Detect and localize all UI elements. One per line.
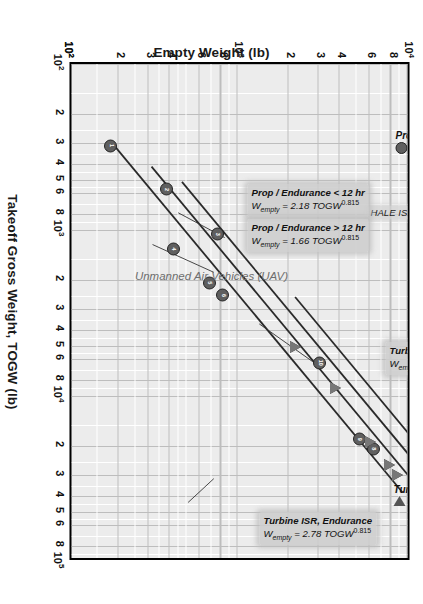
callout-prop-gt12-eq: Wempty = 1.66 TOGW0.815 <box>251 234 364 250</box>
x-tick-label: 104 <box>51 386 65 403</box>
legend-propeller-isr: Propeller ISR UAV 1Spectre2Sky Eye3Preda… <box>395 130 409 263</box>
callout-turbine-maneuver: Turbine Maneuver UCAV Wempty = 3.53 TOGW… <box>385 342 409 375</box>
x-tick-label: 6 <box>53 520 65 526</box>
y-axis-origin-label: 102 <box>62 41 76 58</box>
x-tick-label: 4 <box>53 491 65 497</box>
callout-turbine-isr-line1: Turbine ISR, Endurance <box>263 515 372 526</box>
x-axis-title: Takeoff Gross Weight, TOGW (lb) <box>4 0 19 604</box>
legend-propeller-title: Propeller ISR <box>395 130 409 141</box>
data-point-15 <box>290 341 301 353</box>
x-tick-label: 4 <box>53 325 65 331</box>
x-tick-label: 5 <box>53 341 65 347</box>
x-tick-label: 3 <box>53 138 65 144</box>
x-tick-label: 8 <box>53 375 65 381</box>
callout-leader-line <box>152 245 213 273</box>
legend-ucav-title: Turbine UCAV <box>393 484 409 495</box>
data-point-9: 9 <box>352 433 365 446</box>
filled-triangle-marker-icon <box>393 496 405 506</box>
x-tick-label: 8 <box>53 541 65 547</box>
x-tick-label: 103 <box>51 220 65 237</box>
callout-prop-lt12-line1: Prop / Endurance < 12 hr <box>251 187 364 198</box>
x-tick-label: 6 <box>53 354 65 360</box>
y-tick-label: 3 <box>314 52 326 58</box>
x-tick-label: 3 <box>53 470 65 476</box>
y-tick-label: 104 <box>402 41 416 58</box>
data-point-10: 10 <box>313 356 326 369</box>
y-tick-label: 8 <box>387 52 399 58</box>
x-tick-label: 8 <box>53 209 65 215</box>
x-tick-label: 6 <box>53 188 65 194</box>
data-point-4: 4 <box>166 242 179 255</box>
callout-prop-lt12: Prop / Endurance < 12 hr Wempty = 2.18 T… <box>247 184 368 217</box>
x-tick-label: 2 <box>53 275 65 281</box>
y-axis-title: Empty Weight (lb) <box>122 45 302 60</box>
x-tick-label: 105 <box>51 552 65 569</box>
legend-turbine-ucav: Turbine UCAV UAV 11X-45A12X-45B13AST-003… <box>393 484 409 560</box>
plot-area: 1234561089 Unmanned Air Vehicles (UAV) H… <box>69 62 409 560</box>
data-point-6: 6 <box>216 289 229 302</box>
callout-prop-gt12: Prop / Endurance > 12 hr Wempty = 1.66 T… <box>247 219 368 252</box>
data-point-1: 1 <box>104 139 117 152</box>
data-point-14 <box>391 469 402 481</box>
callout-turbine-maneuver-eq: Wempty = 3.53 TOGW0.815 <box>389 357 409 373</box>
callout-turbine-maneuver-line1: Turbine Maneuver UCAV <box>389 345 409 356</box>
data-point-11 <box>329 382 340 394</box>
callout-turbine-isr: Turbine ISR, Endurance Wempty = 2.78 TOG… <box>259 512 376 545</box>
x-tick-label: 3 <box>53 304 65 310</box>
figure-root: 1234561089 Unmanned Air Vehicles (UAV) H… <box>0 0 423 604</box>
callout-turbine-isr-eq: Wempty = 2.78 TOGW0.815 <box>263 527 372 543</box>
data-point-2: 2 <box>159 183 172 196</box>
callout-leader-line <box>188 479 214 503</box>
x-tick-label: 5 <box>53 175 65 181</box>
x-tick-label: 4 <box>53 159 65 165</box>
trend-lines-overlay <box>71 64 407 558</box>
watermark-label: Unmanned Air Vehicles (UAV) <box>134 270 287 282</box>
trend-line <box>295 297 407 506</box>
x-tick-label: 2 <box>53 109 65 115</box>
callout-prop-lt12-eq: Wempty = 2.18 TOGW0.815 <box>251 199 364 215</box>
data-point-3: 3 <box>210 228 223 241</box>
y-tick-label: 6 <box>365 52 377 58</box>
x-tick-label: 5 <box>53 507 65 513</box>
y-tick-label: 4 <box>335 52 347 58</box>
data-point-12 <box>364 436 375 448</box>
filled-circle-marker-icon <box>395 142 407 154</box>
x-tick-label: 2 <box>53 441 65 447</box>
callout-prop-gt12-line1: Prop / Endurance > 12 hr <box>251 222 364 233</box>
